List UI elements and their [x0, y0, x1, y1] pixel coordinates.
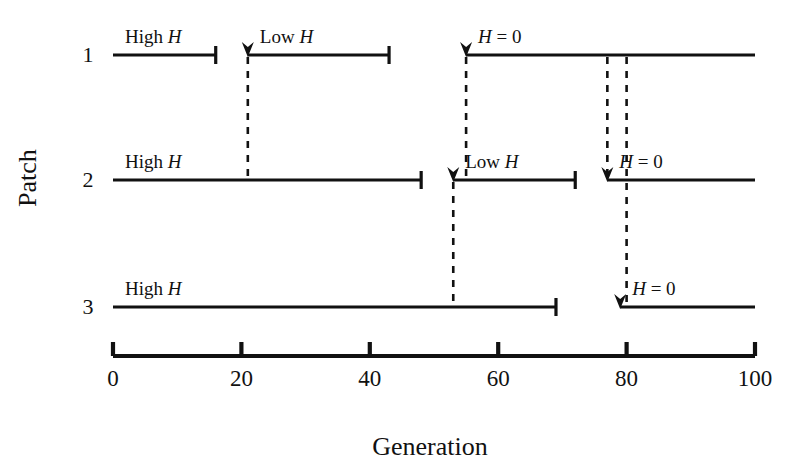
dashed-connectors-group [248, 57, 627, 309]
segment-label-symbol: H [167, 26, 183, 47]
x-axis-group: 020406080100 [107, 342, 772, 391]
row-label-patch-1: 1 [83, 42, 94, 67]
x-axis-title: Generation [372, 432, 488, 461]
segment-label-r3-s2: H = 0 [631, 278, 675, 299]
segment-label-equation: = 0 [646, 278, 676, 299]
x-axis-tick-label-60: 60 [487, 366, 510, 391]
figure-root: 1High HLow HH = 02High HLow HH = 03High … [0, 0, 794, 466]
segment-label-symbol: H [298, 26, 314, 47]
segment-label-equation: = 0 [492, 26, 522, 47]
segment-label-r2-s3: H = 0 [618, 151, 662, 172]
segment-label-symbol: H [504, 151, 520, 172]
patch-rows-group: 1High HLow HH = 02High HLow HH = 03High … [83, 26, 756, 319]
x-axis-tick-label-20: 20 [230, 366, 253, 391]
segment-label-equation: = 0 [633, 151, 663, 172]
x-axis-tick-label-0: 0 [107, 366, 119, 391]
y-axis-title: Patch [13, 149, 42, 207]
segment-label-text: High [125, 26, 168, 47]
x-axis-tick-label-80: 80 [615, 366, 638, 391]
segment-label-r2-s1: High H [125, 151, 183, 172]
patch-timeline-chart: 1High HLow HH = 02High HLow HH = 03High … [0, 0, 794, 466]
row-label-patch-3: 3 [83, 294, 94, 319]
segment-label-text: High [125, 151, 168, 172]
x-axis-tick-label-100: 100 [738, 366, 773, 391]
segment-label-text: Low [260, 26, 300, 47]
segment-label-symbol: H [631, 278, 647, 299]
segment-label-r3-s1: High H [125, 278, 183, 299]
segment-label-symbol: H [477, 26, 493, 47]
row-label-patch-2: 2 [83, 167, 94, 192]
segment-label-text: High [125, 278, 168, 299]
segment-label-r2-s2: Low H [465, 151, 520, 172]
x-axis-tick-label-40: 40 [358, 366, 381, 391]
segment-label-symbol: H [167, 278, 183, 299]
segment-label-r1-s2: Low H [260, 26, 315, 47]
segment-label-symbol: H [167, 151, 183, 172]
segment-label-r1-s1: High H [125, 26, 183, 47]
segment-label-text: Low [465, 151, 505, 172]
segment-label-r1-s3: H = 0 [477, 26, 521, 47]
